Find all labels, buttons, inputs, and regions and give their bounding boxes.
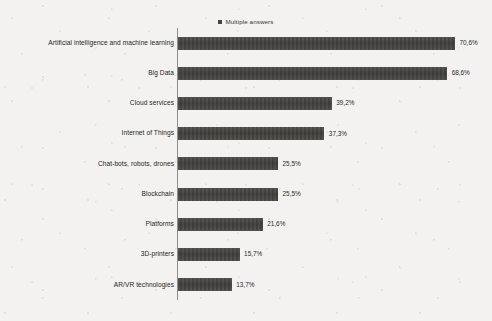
category-label: Blockchain bbox=[2, 191, 174, 198]
bar-row: 3D-printers15,7% bbox=[0, 240, 492, 270]
bar-track: 21,6% bbox=[178, 218, 285, 231]
bar-row: AR/VR technologies13,7% bbox=[0, 270, 492, 300]
legend-entry-multiple-answers: Multiple answers bbox=[218, 19, 273, 25]
bar bbox=[178, 248, 240, 261]
bar-value-label: 13,7% bbox=[236, 282, 254, 288]
legend-square-marker-icon bbox=[218, 20, 222, 24]
bar-row: Big Data68,6% bbox=[0, 58, 492, 88]
bar-value-label: 25,5% bbox=[283, 161, 301, 167]
bar-value-label: 37,3% bbox=[329, 131, 347, 137]
bar-row: Platforms21,6% bbox=[0, 209, 492, 239]
bar-chart: Multiple answers Artificial intelligence… bbox=[0, 0, 492, 321]
category-label: AR/VR technologies bbox=[2, 282, 174, 289]
bar-track: 39,2% bbox=[178, 97, 354, 110]
bar-value-label: 68,6% bbox=[452, 70, 470, 76]
category-label: Artificial intelligence and machine lear… bbox=[2, 40, 174, 47]
bar-track: 68,6% bbox=[178, 67, 470, 80]
category-label: Platforms bbox=[2, 221, 174, 228]
bar-track: 37,3% bbox=[178, 127, 347, 140]
bar bbox=[178, 278, 232, 291]
bars-container: Artificial intelligence and machine lear… bbox=[0, 28, 492, 300]
bar-track: 25,5% bbox=[178, 188, 301, 201]
bar-value-label: 15,7% bbox=[244, 251, 262, 257]
bar bbox=[178, 127, 324, 140]
bar-row: Chat-bots, robots, drones25,5% bbox=[0, 149, 492, 179]
bar bbox=[178, 157, 278, 170]
bar bbox=[178, 218, 263, 231]
bar-track: 13,7% bbox=[178, 278, 254, 291]
bar bbox=[178, 37, 455, 50]
bar-value-label: 39,2% bbox=[336, 100, 354, 106]
bar-track: 25,5% bbox=[178, 157, 301, 170]
bar-row: Cloud services39,2% bbox=[0, 88, 492, 118]
bar-value-label: 21,6% bbox=[267, 221, 285, 227]
bar-row: Internet of Things37,3% bbox=[0, 119, 492, 149]
bar-row: Artificial intelligence and machine lear… bbox=[0, 28, 492, 58]
legend-label: Multiple answers bbox=[225, 19, 273, 25]
category-label: 3D-printers bbox=[2, 251, 174, 258]
bar-value-label: 70,6% bbox=[460, 40, 478, 46]
bar bbox=[178, 97, 332, 110]
bar bbox=[178, 67, 447, 80]
chart-legend: Multiple answers bbox=[0, 11, 492, 27]
bar-track: 15,7% bbox=[178, 248, 262, 261]
bar-value-label: 25,5% bbox=[283, 191, 301, 197]
category-label: Internet of Things bbox=[2, 130, 174, 137]
category-label: Chat-bots, robots, drones bbox=[2, 161, 174, 168]
bar bbox=[178, 188, 278, 201]
category-label: Big Data bbox=[2, 70, 174, 77]
category-label: Cloud services bbox=[2, 100, 174, 107]
bar-track: 70,6% bbox=[178, 37, 478, 50]
bar-row: Blockchain25,5% bbox=[0, 179, 492, 209]
